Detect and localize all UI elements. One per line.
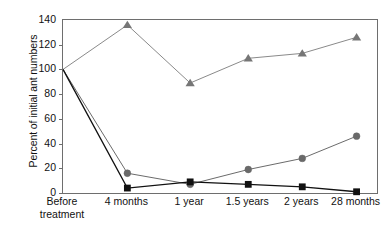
series-triangle (63, 21, 361, 86)
y-tick-label: 120 (30, 39, 56, 49)
x-tick-label-line: Before (47, 195, 78, 207)
data-point-marker (124, 170, 131, 177)
y-tick-mark (59, 193, 63, 194)
x-tick-label-line: 1.5 years (226, 195, 269, 207)
y-tick-mark (59, 168, 63, 169)
data-point-marker (352, 33, 361, 40)
y-tick-label: 60 (30, 113, 56, 123)
data-point-marker (299, 155, 306, 162)
plot-svg (63, 20, 377, 193)
plot-area (62, 19, 378, 194)
series-line (63, 69, 357, 184)
x-tick-label-line: 1 year (175, 195, 204, 207)
x-tick-label-line: 4 months (105, 195, 148, 207)
data-point-marker (245, 181, 252, 188)
y-tick-label: 80 (30, 88, 56, 98)
data-point-marker (245, 166, 252, 173)
chart-figure: Percent of initial ant numbers 020406080… (0, 0, 384, 232)
x-tick-label: 1 year (175, 195, 204, 208)
y-tick-label: 20 (30, 162, 56, 172)
data-point-marker (299, 183, 306, 190)
data-point-marker (123, 21, 132, 28)
y-tick-mark (59, 94, 63, 95)
y-tick-label: 140 (30, 14, 56, 24)
x-tick-label-line: treatment (40, 208, 84, 221)
y-tick-mark (59, 45, 63, 46)
series-line (63, 25, 357, 83)
series-line (63, 69, 357, 191)
x-tick-label: 28 months (331, 195, 380, 208)
x-tick-label: 2 years (284, 195, 318, 208)
data-point-marker (187, 178, 194, 185)
x-tick-label: 1.5 years (226, 195, 269, 208)
x-tick-label-line: 2 years (284, 195, 318, 207)
y-tick-mark (59, 119, 63, 120)
series-circle (63, 69, 360, 187)
x-tick-label: 4 months (105, 195, 148, 208)
y-tick-mark (59, 144, 63, 145)
x-tick-label: Beforetreatment (40, 195, 84, 220)
x-tick-label-line: 28 months (331, 195, 380, 207)
y-tick-label: 40 (30, 138, 56, 148)
y-tick-mark (59, 69, 63, 70)
data-point-marker (124, 185, 131, 192)
x-axis-tick-labels: Beforetreatment4 months1 year1.5 years2 … (62, 195, 376, 231)
y-tick-label: 100 (30, 63, 56, 73)
data-point-marker (353, 133, 360, 140)
series-square (63, 69, 360, 195)
